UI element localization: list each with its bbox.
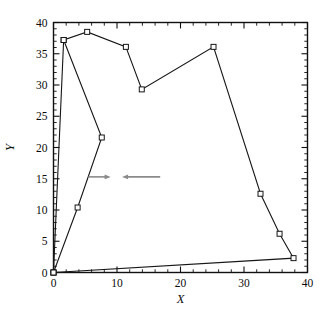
x-tick-label: 0 (51, 277, 57, 289)
data-point-marker (277, 231, 282, 236)
data-point-marker (291, 256, 296, 261)
arrow-head (105, 175, 111, 180)
data-point-marker (75, 205, 80, 210)
data-point-marker (139, 87, 144, 92)
y-tick-label: 10 (36, 204, 48, 216)
series-line (54, 40, 102, 273)
data-point-marker (258, 191, 263, 196)
plot-border (54, 23, 308, 273)
axis-ticks (54, 23, 308, 273)
y-tick-label: 15 (36, 173, 48, 185)
data-point-marker (123, 44, 128, 49)
arrow-left (122, 175, 160, 180)
x-tick-label: 30 (238, 277, 250, 289)
data-point-marker (51, 270, 56, 275)
data-point-marker (61, 38, 66, 43)
x-tick-label: 20 (175, 277, 187, 289)
axis-tick-labels: 0102030400510152025303540 (36, 17, 314, 289)
y-tick-label: 40 (36, 17, 48, 29)
y-tick-label: 0 (42, 267, 48, 279)
annotation-layer (88, 175, 160, 180)
data-point-marker (211, 44, 216, 49)
data-series-layer (51, 29, 296, 275)
y-tick-label: 20 (36, 142, 48, 154)
x-axis-title: X (176, 292, 186, 306)
y-tick-label: 35 (36, 48, 48, 60)
arrow-right (88, 175, 110, 180)
axis-titles: XY (3, 142, 186, 306)
y-tick-label: 25 (36, 110, 48, 122)
y-axis-title: Y (3, 142, 17, 151)
y-tick-label: 30 (36, 79, 48, 91)
x-tick-label: 40 (302, 277, 314, 289)
data-point-marker (99, 135, 104, 140)
data-point-marker (85, 29, 90, 34)
plot-frame (54, 23, 308, 273)
x-tick-label: 10 (111, 277, 123, 289)
y-tick-label: 5 (42, 235, 48, 247)
scatter-line-plot: 0102030400510152025303540 XY (0, 0, 328, 309)
arrow-head (122, 175, 128, 180)
chart-container: 0102030400510152025303540 XY (0, 0, 328, 309)
series-line (54, 32, 294, 273)
